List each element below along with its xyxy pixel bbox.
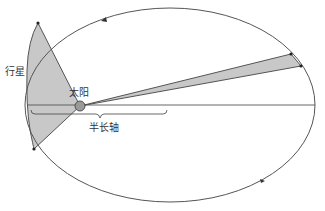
planet-label: 行星 xyxy=(5,65,25,77)
kepler-diagram: 行星 太阳 半长轴 xyxy=(0,0,325,211)
planet-dot xyxy=(36,21,39,24)
semi-major-axis-label: 半长轴 xyxy=(89,121,119,133)
planet-dot xyxy=(299,64,302,67)
sector-aphelion xyxy=(80,54,301,106)
sun-label: 太阳 xyxy=(69,86,89,98)
sector-perihelion xyxy=(27,23,80,149)
planet-dot xyxy=(32,147,35,150)
planet-dot xyxy=(289,52,292,55)
sun xyxy=(75,101,85,111)
